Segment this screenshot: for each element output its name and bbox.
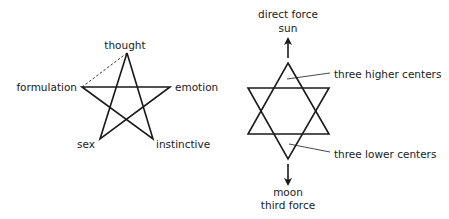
label-moon: moon (273, 186, 303, 198)
upward-triangle (248, 63, 329, 134)
pentagram: thought formulation emotion sex instinct… (16, 39, 218, 150)
dashed-link-formulation-thought (82, 53, 127, 87)
label-thought: thought (104, 39, 145, 51)
label-third-force: third force (261, 199, 315, 211)
label-three-higher-centers: three higher centers (334, 68, 441, 80)
downward-triangle (248, 88, 329, 159)
label-sex: sex (77, 138, 95, 150)
label-direct-force: direct force (258, 8, 318, 20)
hexagram: direct force sun moon third force three … (248, 8, 441, 211)
label-three-lower-centers: three lower centers (334, 148, 436, 160)
label-formulation: formulation (16, 81, 77, 93)
label-emotion: emotion (175, 81, 218, 93)
label-sun: sun (279, 22, 298, 34)
diagram-canvas: thought formulation emotion sex instinct… (0, 0, 449, 219)
pentagram-lines (82, 53, 170, 139)
label-instinctive: instinctive (156, 138, 210, 150)
